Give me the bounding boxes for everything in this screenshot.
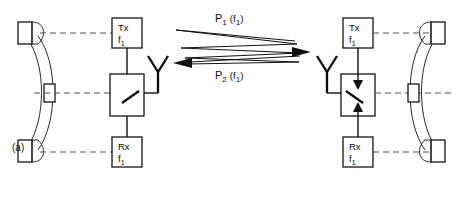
forward-path-label: P1 (f1) (215, 12, 243, 27)
right-antenna (317, 56, 337, 93)
right-tr-switch (327, 74, 375, 116)
right-rx-box-label: Rx (349, 141, 361, 152)
left-tx-box-label: Tx (118, 22, 129, 33)
left-antenna-arm-b (158, 56, 168, 72)
reverse-ray-segment-3 (188, 62, 299, 64)
figure-container: Tx f1 Rx f1 (0, 0, 463, 222)
left-antenna (148, 56, 168, 93)
left-antenna-arm-a (148, 56, 158, 72)
handset-earpiece-cap-right (431, 22, 445, 44)
figure-caption-label: (a) (12, 142, 24, 153)
forward-ray-edge (176, 30, 295, 41)
right-antenna-arm-a (317, 56, 327, 72)
right-tx-box-label: Tx (349, 22, 360, 33)
handset-mouthpiece-cap-right (431, 140, 445, 162)
left-tr-switch (110, 74, 158, 116)
reverse-path-label: P2 (f1) (215, 69, 243, 84)
forward-ray-segment-2 (181, 44, 297, 48)
left-rx-box-label: Rx (118, 141, 130, 152)
duplex-link-diagram: Tx f1 Rx f1 (0, 0, 463, 222)
forward-ray-arrowhead (292, 47, 311, 57)
right-antenna-arm-b (327, 56, 337, 72)
right-telephone-handset (408, 22, 445, 162)
handset-earpiece-cap-left (18, 22, 32, 44)
forward-propagation-ray: P1 (f1) (176, 12, 311, 57)
left-switch-box-rect (110, 74, 144, 116)
reverse-ray-arrowhead (173, 58, 192, 68)
reverse-propagation-ray: P2 (f1) (173, 53, 300, 84)
handset-center-nub-right (408, 84, 419, 102)
left-telephone-handset (18, 22, 55, 162)
forward-ray-segment-3 (181, 48, 300, 53)
